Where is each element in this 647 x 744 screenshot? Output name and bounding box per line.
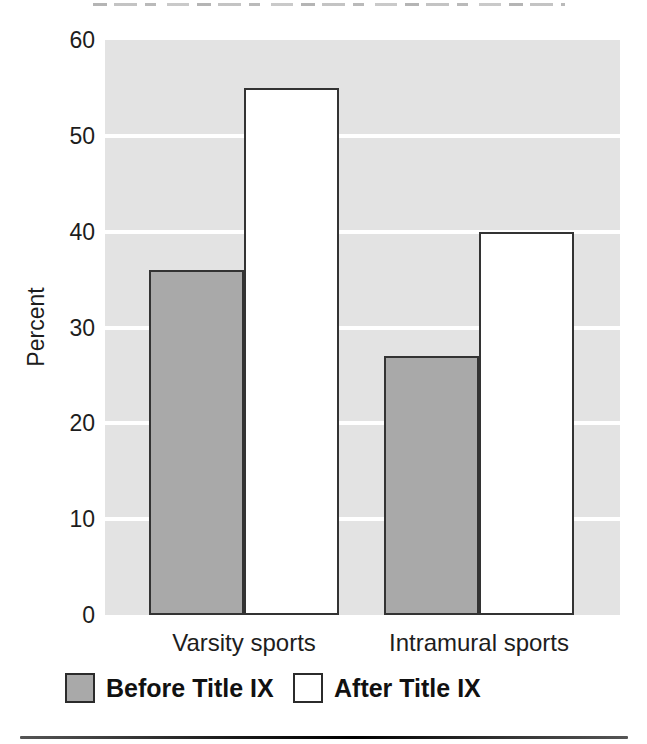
y-axis-title: Percent	[23, 287, 50, 366]
legend-item-before-title-ix: Before Title IX	[65, 673, 274, 703]
category-label-varsity-sports: Varsity sports	[172, 629, 316, 657]
title-ix-bar-chart-figure: 6050403020100 Percent Varsity sports Int…	[0, 0, 647, 744]
legend-label-before-title-ix: Before Title IX	[106, 674, 274, 703]
gridline-50	[105, 134, 620, 138]
clipped-title-text-remnant	[93, 3, 565, 6]
y-tick-label-60: 60	[0, 26, 95, 54]
legend-label-after-title-ix: After Title IX	[334, 674, 481, 703]
legend-swatch-after-title-ix	[293, 673, 323, 703]
y-tick-label-0: 0	[0, 601, 95, 629]
bar-before-title-ix-intramural-sports	[384, 356, 479, 615]
category-label-intramural-sports: Intramural sports	[389, 629, 569, 657]
y-tick-label-50: 50	[0, 122, 95, 150]
legend-swatch-before-title-ix	[65, 673, 95, 703]
y-tick-label-10: 10	[0, 505, 95, 533]
bar-after-title-ix-intramural-sports	[479, 232, 574, 615]
plot-area	[105, 40, 620, 615]
y-tick-label-20: 20	[0, 409, 95, 437]
clipped-title-fragment	[93, 0, 565, 6]
bottom-page-rule	[20, 736, 628, 739]
bar-before-title-ix-varsity-sports	[149, 270, 244, 615]
legend-item-after-title-ix: After Title IX	[293, 673, 481, 703]
bar-after-title-ix-varsity-sports	[244, 88, 339, 615]
y-tick-label-40: 40	[0, 218, 95, 246]
